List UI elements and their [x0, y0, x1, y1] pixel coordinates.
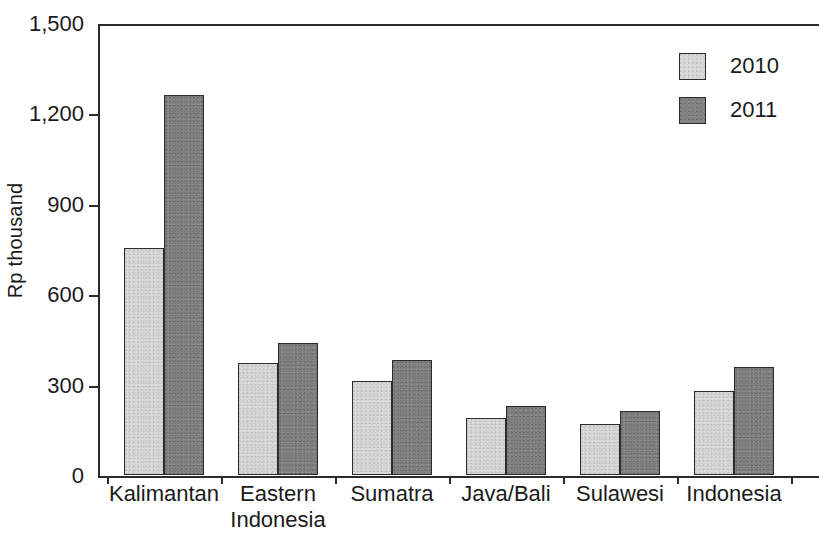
y-axis-tick-label: 1,500 — [6, 13, 84, 35]
legend: 20102011 — [679, 44, 819, 132]
bar — [694, 391, 734, 475]
bar-chart: Rp thousand 03006009001,2001,500 Kaliman… — [0, 0, 819, 535]
legend-label: 2011 — [730, 99, 777, 121]
y-axis-tick-label: 300 — [6, 375, 84, 397]
legend-item: 2011 — [679, 88, 819, 132]
y-axis-title-text: Rp thousand — [5, 182, 28, 298]
y-axis-tick-label: 0 — [6, 465, 84, 487]
x-axis-tick-label: Indonesia — [644, 481, 819, 507]
y-axis-tick-labels: 03006009001,2001,500 — [0, 0, 84, 535]
legend-swatch — [679, 97, 706, 124]
bar — [506, 406, 546, 475]
y-axis-tick-label: 900 — [6, 194, 84, 216]
bar — [466, 418, 506, 475]
bar — [580, 424, 620, 475]
bar — [734, 367, 774, 475]
bar — [392, 360, 432, 475]
x-axis-line — [98, 476, 819, 478]
y-axis-tick-label: 1,200 — [6, 103, 84, 125]
bar — [164, 95, 204, 475]
bar — [238, 363, 278, 475]
bar — [278, 343, 318, 475]
y-axis-tick-mark — [89, 114, 100, 116]
legend-item: 2010 — [679, 44, 819, 88]
y-axis-tick-label: 600 — [6, 284, 84, 306]
x-axis-tick-label-line: Indonesia — [188, 507, 368, 533]
bar — [620, 411, 660, 475]
y-axis-line — [98, 24, 100, 478]
y-axis-tick-mark — [89, 386, 100, 388]
y-axis-title: Rp thousand — [0, 0, 32, 480]
plot-top-border — [98, 24, 819, 26]
x-axis-tick-label-line: Indonesia — [686, 481, 781, 506]
y-axis-tick-mark — [89, 205, 100, 207]
bar — [352, 381, 392, 475]
legend-swatch — [679, 53, 706, 80]
legend-label: 2010 — [730, 55, 779, 77]
bar — [124, 248, 164, 476]
y-axis-tick-mark — [89, 295, 100, 297]
